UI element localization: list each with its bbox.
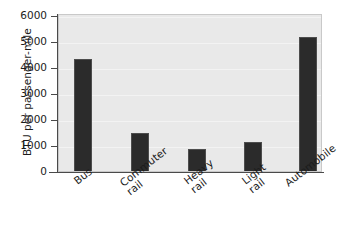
- gridline: [59, 17, 321, 18]
- y-tick-label: 0: [7, 166, 47, 177]
- y-axis-line: [57, 14, 58, 173]
- bar-automobile: [299, 37, 317, 173]
- y-tick-mark: [51, 94, 57, 95]
- gridline: [59, 69, 321, 70]
- gridline: [59, 43, 321, 44]
- plot-area: [58, 14, 322, 172]
- y-tick-label: 5000: [7, 36, 47, 47]
- gridline: [59, 95, 321, 96]
- y-tick-mark: [51, 68, 57, 69]
- y-tick-label: 2000: [7, 114, 47, 125]
- y-tick-label: 1000: [7, 140, 47, 151]
- gridline: [59, 121, 321, 122]
- y-tick-label: 4000: [7, 62, 47, 73]
- y-tick-mark: [51, 16, 57, 17]
- y-tick-label: 3000: [7, 88, 47, 99]
- y-tick-mark: [51, 120, 57, 121]
- y-tick-mark: [51, 42, 57, 43]
- y-tick-mark: [51, 172, 57, 173]
- y-tick-mark: [51, 146, 57, 147]
- bar-bus: [74, 59, 92, 172]
- y-tick-label: 6000: [7, 10, 47, 21]
